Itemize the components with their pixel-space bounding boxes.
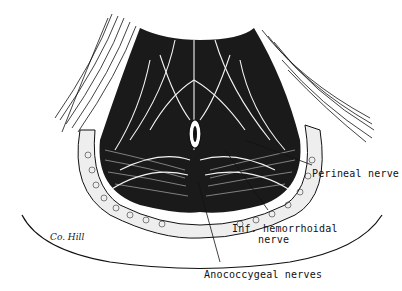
perineal-nerve-label: Perineal nerve [312,168,399,179]
anococcygeal-nerves-label: Anococcygeal nerves [204,269,322,280]
inf-hemorrhoidal-label-line2: nerve [258,234,289,245]
artist-signature: Co. Hill [50,232,84,242]
ischiorectal-fossa [100,28,301,213]
inf-hemorrhoidal-label-line1: Inf. hemorrhoidal [232,223,338,234]
anatomical-illustration [0,0,402,291]
